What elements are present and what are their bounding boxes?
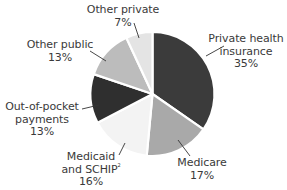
label-medicare-line1: Medicare [172,157,232,170]
pie-slices [91,32,215,156]
label-other-private-line1: Other private [83,4,163,17]
label-out-of-pocket-line1: Out-of-pocket [2,101,82,114]
label-medicare-pct: 17% [172,170,232,183]
label-medicaid-schip: Medicaid and SCHIP2 16% [56,151,126,189]
label-out-of-pocket-pct: 13% [2,126,82,139]
label-private-health-line1: Private health [206,33,286,46]
label-other-public: Other public 13% [20,39,100,64]
label-medicaid-line2-text: and SCHIP [61,163,117,176]
label-out-of-pocket: Out-of-pocket payments 13% [2,101,82,139]
label-medicaid-pct: 16% [56,176,126,189]
footnote-marker: 2 [118,162,121,168]
label-medicare: Medicare 17% [172,157,232,182]
label-other-private: Other private 7% [83,4,163,29]
label-other-private-pct: 7% [83,17,163,30]
label-other-public-pct: 13% [20,52,100,65]
label-private-health-pct: 35% [206,58,286,71]
label-other-public-line1: Other public [20,39,100,52]
label-private-health-insurance: Private health insurance 35% [206,33,286,71]
